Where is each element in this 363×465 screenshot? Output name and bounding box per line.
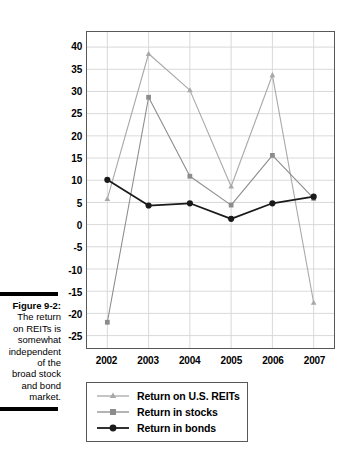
caption-text: Figure 9-2: The return on REITs is somew… [0,300,62,403]
figure-caption: Figure 9-2: The return on REITs is somew… [0,292,62,411]
legend-item-reits[interactable]: Return on U.S. REITs [87,388,247,404]
y-axis-tick-label: -10 [68,264,82,275]
caption-line-2: on REITs is [0,323,61,334]
data-point-marker [229,203,234,208]
caption-rule-bottom [0,407,58,411]
y-axis-tick-label: 10 [71,175,82,186]
legend-label-stocks: Return in stocks [137,406,218,418]
x-axis-tick-label: 2003 [137,355,158,366]
caption-rule-top [0,292,58,296]
line-chart [87,32,334,348]
y-axis-tick-label: 35 [71,63,82,74]
caption-line-5: of the [0,357,61,368]
caption-line-7: and bond [0,380,61,391]
caption-line-8: market. [0,391,61,402]
data-point-marker [269,200,275,206]
x-axis-tick-label: 2004 [179,355,200,366]
y-axis-tick-label: -25 [68,331,82,342]
legend-marker-square-icon [96,405,130,419]
legend-label-reits: Return on U.S. REITs [137,390,240,402]
y-axis-tick-label: -5 [74,242,83,253]
data-point-marker [311,194,317,200]
y-axis-tick-label: -15 [68,286,82,297]
data-point-marker [105,196,111,201]
y-axis-tick-label: 0 [77,219,82,230]
legend-marker-circle-icon [96,421,130,435]
caption-line-4: independent [0,346,61,357]
plot-area [86,31,335,349]
y-axis-tick-label: 5 [77,197,82,208]
data-point-marker [146,51,152,56]
data-point-marker [105,320,110,325]
data-point-marker [146,95,151,100]
figure-container: Figure 9-2: The return on REITs is somew… [0,0,363,465]
data-point-marker [228,216,234,222]
y-axis-tick-label: 25 [71,108,82,119]
y-axis-tick-label: -20 [68,309,82,320]
x-axis-tick-label: 2002 [96,355,117,366]
x-axis-tick-label: 2007 [304,355,325,366]
data-point-marker [187,200,193,206]
legend-label-bonds: Return in bonds [137,422,216,434]
y-axis-tick-label: 15 [71,152,82,163]
series-line-2 [107,180,313,219]
caption-line-3: somewhat [0,334,61,345]
data-point-marker [104,177,110,183]
legend-marker-triangle-icon [96,389,130,403]
caption-line-1: The return [0,311,61,322]
caption-line-6: broad stock [0,368,61,379]
y-axis-tick-label: 30 [71,85,82,96]
x-axis-tick-label: 2006 [262,355,283,366]
y-axis-tick-label: 20 [71,130,82,141]
y-axis-tick-label: 40 [71,41,82,52]
data-point-marker [270,72,276,77]
figure-number-label: Figure 9-2: [0,300,61,311]
data-point-marker [228,183,234,188]
chart-legend: Return on U.S. REITs Return in stocks Re… [86,382,248,442]
data-point-marker [146,202,152,208]
legend-item-stocks[interactable]: Return in stocks [87,404,247,420]
data-point-marker [311,300,317,305]
data-point-marker [270,153,275,158]
data-point-marker [187,174,192,179]
legend-item-bonds[interactable]: Return in bonds [87,420,247,436]
x-axis-tick-label: 2005 [221,355,242,366]
